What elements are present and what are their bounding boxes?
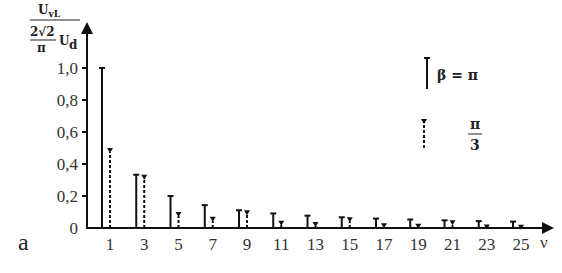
svg-text:0,8: 0,8 bbox=[57, 91, 78, 110]
svg-text:11: 11 bbox=[273, 235, 289, 254]
svg-text:3: 3 bbox=[470, 137, 480, 153]
svg-text:0,4: 0,4 bbox=[57, 155, 79, 174]
svg-text:3: 3 bbox=[140, 235, 149, 254]
svg-text:19: 19 bbox=[410, 235, 427, 254]
y-ticks: 00,20,40,60,81,0 bbox=[57, 59, 87, 238]
legend: β = π π 3 bbox=[421, 58, 482, 153]
svg-text:5: 5 bbox=[174, 235, 183, 254]
svg-text:2√2: 2√2 bbox=[30, 25, 55, 39]
svg-text:1,0: 1,0 bbox=[57, 59, 78, 78]
svg-text:UvL: UvL bbox=[38, 3, 61, 19]
svg-text:23: 23 bbox=[478, 235, 495, 254]
svg-text:0,6: 0,6 bbox=[57, 123, 78, 142]
svg-text:d: d bbox=[69, 38, 78, 52]
svg-text:0,2: 0,2 bbox=[57, 187, 78, 206]
svg-text:9: 9 bbox=[243, 235, 252, 254]
panel-label: a bbox=[18, 229, 29, 255]
svg-text:1: 1 bbox=[106, 235, 115, 254]
bars bbox=[99, 68, 524, 230]
svg-text:7: 7 bbox=[209, 235, 218, 254]
svg-text:13: 13 bbox=[307, 235, 324, 254]
svg-text:π: π bbox=[470, 116, 480, 132]
svg-text:π: π bbox=[37, 41, 46, 55]
harmonic-spectrum-chart: UvL 2√2 π U d 00,20,40,60,81,0 135791113… bbox=[0, 0, 562, 273]
y-axis-label: UvL 2√2 π U d bbox=[30, 3, 80, 55]
svg-text:0: 0 bbox=[70, 219, 79, 238]
svg-text:25: 25 bbox=[513, 235, 530, 254]
svg-text:17: 17 bbox=[376, 235, 394, 254]
x-ticks: 135791113151719212325 bbox=[106, 235, 530, 254]
svg-text:β = π: β = π bbox=[437, 67, 478, 83]
x-axis-label: ν bbox=[540, 233, 548, 252]
svg-text:15: 15 bbox=[341, 235, 358, 254]
svg-text:21: 21 bbox=[444, 235, 461, 254]
